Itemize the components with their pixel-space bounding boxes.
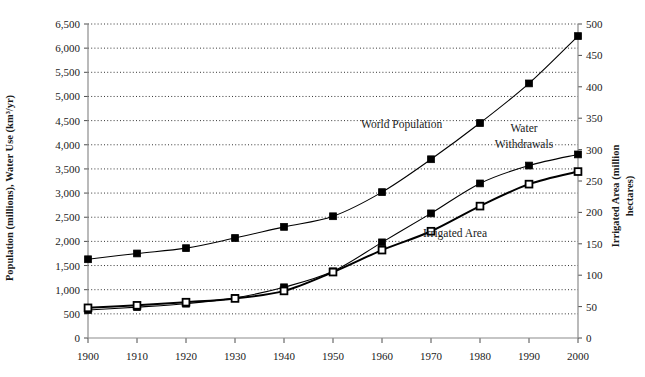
series-label-irrigated-area: Irrigated Area [423, 227, 487, 240]
data-point-marker [526, 162, 533, 169]
data-point-marker [281, 223, 288, 230]
data-point-marker [183, 299, 190, 306]
data-point-marker [134, 250, 141, 257]
data-point-marker [281, 288, 288, 295]
data-point-marker [575, 168, 582, 175]
series-label-world-population: World Population [361, 118, 442, 131]
data-point-marker [428, 156, 435, 163]
right-tick-label: 0 [586, 332, 592, 344]
data-point-marker [85, 256, 92, 263]
chart-container: 05001,0001,5002,0002,5003,0003,5004,0004… [0, 0, 645, 377]
right-tick-label: 250 [586, 175, 603, 187]
data-point-marker [232, 295, 239, 302]
right-tick-label: 500 [586, 18, 603, 30]
data-point-marker [428, 210, 435, 217]
left-tick-label: 0 [75, 332, 81, 344]
x-tick-label: 1950 [322, 350, 345, 362]
right-tick-label: 200 [586, 206, 603, 218]
data-point-marker [330, 269, 337, 276]
left-tick-label: 5,500 [55, 66, 80, 78]
data-point-marker [477, 120, 484, 127]
data-point-marker [379, 189, 386, 196]
data-point-marker [379, 239, 386, 246]
left-tick-label: 1,000 [55, 284, 80, 296]
x-tick-label: 1960 [371, 350, 394, 362]
x-tick-label: 2000 [567, 350, 590, 362]
left-tick-label: 5,000 [55, 90, 80, 102]
x-tick-label: 1980 [469, 350, 492, 362]
series-label-water-withdrawals-line1: Water [510, 122, 537, 134]
left-tick-label: 500 [64, 308, 81, 320]
x-tick-label: 1920 [175, 350, 198, 362]
chart-background [0, 0, 645, 377]
right-axis-title-line1: Irrigated Area (million [610, 145, 622, 248]
left-tick-label: 3,500 [55, 163, 80, 175]
right-tick-label: 300 [586, 144, 603, 156]
left-tick-label: 6,500 [55, 18, 80, 30]
data-point-marker [526, 80, 533, 87]
x-tick-label: 1900 [77, 350, 100, 362]
right-tick-label: 350 [586, 112, 603, 124]
right-tick-label: 50 [586, 301, 598, 313]
x-tick-label: 1940 [273, 350, 296, 362]
x-tick-label: 1970 [420, 350, 443, 362]
data-point-marker [134, 302, 141, 309]
left-tick-label: 6,000 [55, 42, 80, 54]
data-point-marker [232, 235, 239, 242]
left-tick-label: 3,000 [55, 187, 80, 199]
left-tick-label: 4,000 [55, 139, 80, 151]
data-point-marker [575, 151, 582, 158]
right-tick-label: 150 [586, 238, 603, 250]
right-axis-title-line2: hectares) [624, 175, 636, 216]
left-tick-label: 4,500 [55, 115, 80, 127]
data-point-marker [379, 247, 386, 254]
left-tick-label: 1,500 [55, 260, 80, 272]
data-point-marker [575, 33, 582, 40]
left-axis-title: Population (millions), Water Use (km³/yr… [4, 94, 16, 281]
data-point-marker [477, 180, 484, 187]
right-tick-label: 400 [586, 81, 603, 93]
left-tick-label: 2,500 [55, 211, 80, 223]
data-point-marker [85, 304, 92, 311]
x-tick-label: 1930 [224, 350, 247, 362]
data-point-marker [526, 181, 533, 188]
data-point-marker [330, 213, 337, 220]
data-point-marker [477, 203, 484, 210]
x-tick-label: 1910 [126, 350, 149, 362]
right-tick-label: 100 [586, 269, 603, 281]
line-chart: 05001,0001,5002,0002,5003,0003,5004,0004… [0, 0, 645, 377]
data-point-marker [183, 245, 190, 252]
right-tick-label: 450 [586, 49, 603, 61]
x-tick-label: 1990 [518, 350, 541, 362]
left-tick-label: 2,000 [55, 235, 80, 247]
series-label-water-withdrawals-line2: Withdrawals [495, 138, 554, 150]
